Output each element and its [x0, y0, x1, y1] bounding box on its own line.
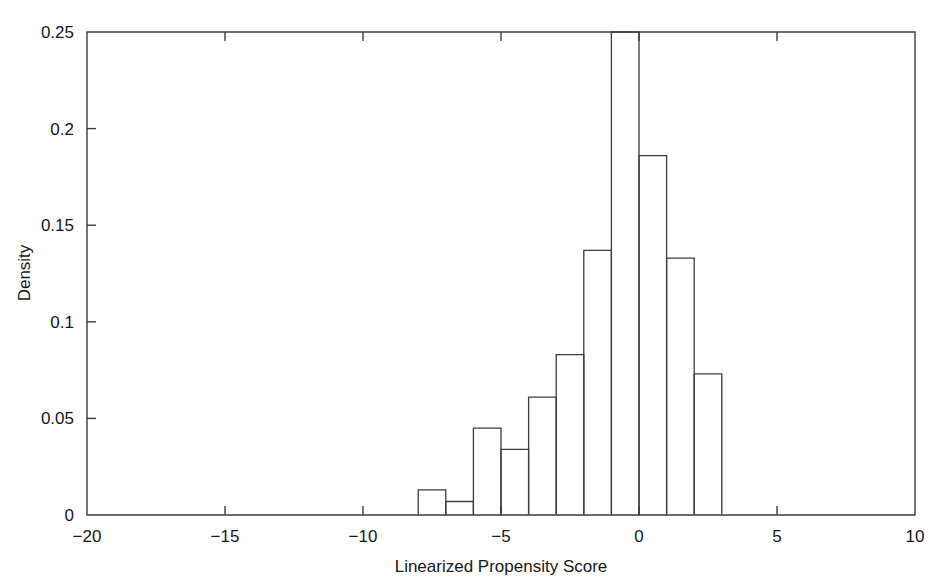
histogram-figure: 00.050.10.150.20.25 −20−15−10−50510 Dens…: [0, 0, 945, 584]
x-axis-title: Linearized Propensity Score: [395, 557, 608, 576]
y-axis-title: Density: [15, 244, 34, 301]
y-tick-label: 0.1: [50, 313, 74, 332]
x-tick-label: 10: [906, 527, 925, 546]
histogram-bar: [418, 490, 446, 515]
histogram-bar: [501, 449, 529, 515]
histogram-bar: [556, 355, 584, 515]
x-axis-ticks: −20−15−10−50510: [73, 32, 925, 546]
histogram-bar: [611, 32, 639, 515]
histogram-bar: [694, 374, 722, 515]
chart-svg: 00.050.10.150.20.25 −20−15−10−50510 Dens…: [0, 0, 945, 584]
x-tick-label: −10: [349, 527, 378, 546]
y-tick-label: 0.05: [41, 409, 74, 428]
y-tick-label: 0: [65, 506, 74, 525]
x-tick-label: −5: [491, 527, 510, 546]
x-tick-label: −15: [211, 527, 240, 546]
x-tick-label: 5: [772, 527, 781, 546]
x-tick-label: −20: [73, 527, 102, 546]
histogram-bars: [418, 32, 722, 515]
histogram-bar: [584, 250, 612, 515]
histogram-bar: [473, 428, 501, 515]
y-tick-label: 0.15: [41, 216, 74, 235]
y-axis-ticks: 00.050.10.150.20.25: [41, 23, 96, 525]
histogram-bar: [446, 501, 474, 515]
histogram-bar: [529, 397, 557, 515]
histogram-bar: [639, 156, 667, 515]
y-tick-label: 0.2: [50, 120, 74, 139]
y-tick-label: 0.25: [41, 23, 74, 42]
x-tick-label: 0: [634, 527, 643, 546]
histogram-bar: [667, 258, 695, 515]
